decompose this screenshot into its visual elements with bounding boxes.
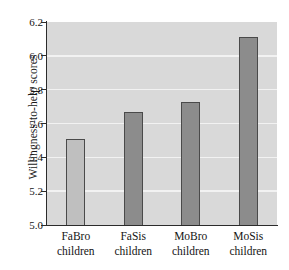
- y-axis-tick-label: 5.4: [17, 151, 43, 163]
- y-axis-tick-label: 5.2: [17, 185, 43, 197]
- y-axis-tick-mark: [41, 191, 47, 192]
- y-axis-tick-mark: [41, 89, 47, 90]
- plot-area: [47, 22, 277, 225]
- x-axis-line: [46, 225, 278, 226]
- y-axis-tick-label: 5.6: [17, 118, 43, 130]
- y-axis-tick-label: 5.8: [17, 84, 43, 96]
- y-axis-tick-mark: [41, 225, 47, 226]
- x-axis-tick-label-line: MoSis: [211, 229, 285, 244]
- x-axis-tick-label: MoSischildren: [211, 229, 285, 259]
- bar: [181, 102, 200, 226]
- bar: [124, 112, 143, 225]
- x-axis-tick-label-line: children: [211, 244, 285, 259]
- bar: [66, 139, 85, 225]
- y-axis-tick-label: 6.2: [17, 16, 43, 28]
- y-axis-tick-mark: [41, 22, 47, 23]
- y-axis-tick-mark: [41, 157, 47, 158]
- y-axis-tick-mark: [41, 123, 47, 124]
- y-axis-tick-label: 6.0: [17, 50, 43, 62]
- bar: [239, 37, 258, 225]
- chart-figure: Willingness-to-help scores 6.26.05.85.65…: [0, 0, 289, 270]
- y-axis-tick-mark: [41, 55, 47, 56]
